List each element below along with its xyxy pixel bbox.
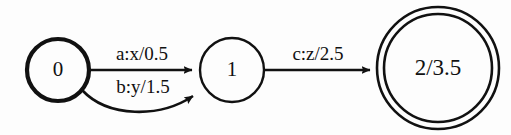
fst-diagram-canvas: a:x/0.5 b:y/1.5 c:z/2.5 0 1 2/3.5 — [0, 0, 511, 135]
state-label-2: 2/3.5 — [415, 55, 462, 80]
state-label-0: 0 — [53, 57, 64, 81]
transition-label-c: c:z/2.5 — [292, 43, 343, 64]
transition-b-y-1-5[interactable]: b:y/1.5 — [82, 76, 193, 112]
transition-label-a: a:x/0.5 — [116, 43, 168, 64]
transition-c-z-2-5[interactable]: c:z/2.5 — [265, 43, 370, 70]
state-node-0[interactable]: 0 — [27, 39, 89, 101]
state-label-1: 1 — [227, 57, 238, 81]
state-node-1[interactable]: 1 — [200, 38, 264, 102]
transition-label-b: b:y/1.5 — [116, 76, 169, 97]
state-node-2[interactable]: 2/3.5 — [377, 7, 499, 129]
transition-a-x-0-5[interactable]: a:x/0.5 — [89, 43, 192, 70]
fst-diagram-svg: a:x/0.5 b:y/1.5 c:z/2.5 0 1 2/3.5 — [0, 0, 511, 135]
